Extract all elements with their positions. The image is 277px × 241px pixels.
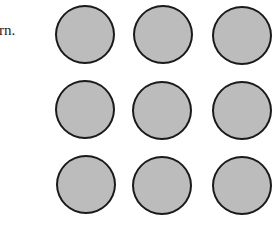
- circle-r3-c2: [132, 156, 192, 215]
- circle-r1-c1: [55, 5, 115, 64]
- circle-r2-c2: [132, 81, 192, 140]
- circle-r3-c1: [56, 155, 116, 214]
- circle-r3-c3: [212, 156, 272, 215]
- circle-grid-figure: [0, 0, 277, 241]
- circle-r2-c1: [55, 80, 115, 139]
- circle-r2-c3: [212, 81, 272, 140]
- circle-r1-c2: [133, 5, 193, 64]
- circle-r1-c3: [212, 6, 272, 65]
